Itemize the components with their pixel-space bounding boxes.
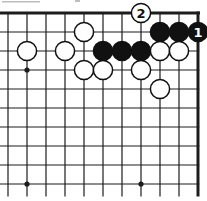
white-stone: [55, 41, 74, 60]
white-stone: [74, 22, 93, 41]
white-stone: [17, 41, 36, 60]
star-point: [24, 181, 29, 186]
move-number-label: 2: [136, 6, 145, 21]
go-diagram-page: 21: [0, 0, 207, 201]
move-number-label: 1: [193, 25, 202, 40]
black-stone: [112, 41, 131, 60]
scan-artifact: [75, 0, 80, 2]
black-stone: [131, 41, 150, 60]
go-board-diagram: 21: [0, 0, 207, 201]
black-stone: [169, 22, 188, 41]
star-point: [138, 181, 143, 186]
white-stone: [74, 60, 93, 79]
white-stone: [93, 60, 112, 79]
white-stone: [131, 60, 150, 79]
scan-artifact: [2, 1, 40, 3]
black-stone: [93, 41, 112, 60]
black-stone: [150, 22, 169, 41]
star-point: [24, 67, 29, 72]
white-stone: [169, 41, 188, 60]
white-stone: [150, 79, 169, 98]
white-stone: [150, 41, 169, 60]
